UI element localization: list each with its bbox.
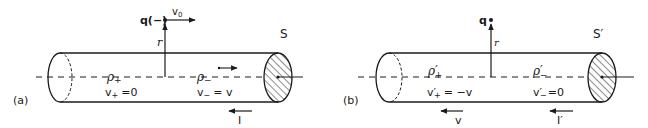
charge-point-b — [489, 18, 493, 22]
v-minus-label-a: v−= v — [197, 86, 233, 100]
charge-label-a: q(−) — [140, 14, 167, 27]
charge-label-b: q — [479, 14, 487, 27]
panel-b: r q ρ′+ v′+= −v ρ′− v′−=0 v I′ S′ (b) — [343, 14, 634, 127]
v-plus-label-b: v′+= −v — [427, 86, 473, 100]
panel-tag-b: (b) — [343, 94, 359, 107]
frame-label-a: S — [280, 27, 288, 41]
diagram-canvas: r q(−) v0 ρ+ v+=0 ρ− v−= v I S (a) — [0, 0, 648, 128]
panel-a: r q(−) v0 ρ+ v+=0 ρ− v−= v I S (a) — [13, 6, 303, 127]
panel-tag-a: (a) — [13, 94, 28, 107]
v-plus-label-a: v+=0 — [105, 86, 137, 100]
rho-minus-label-b: ρ′− — [532, 64, 547, 80]
frame-label-b: S′ — [593, 27, 604, 41]
rho-plus-label-b: ρ′+ — [427, 64, 442, 80]
velocity-label-b: v — [455, 114, 462, 127]
radius-label-b: r — [494, 37, 500, 48]
rho-minus-label-a: ρ− — [196, 70, 212, 85]
current-label-a: I — [238, 114, 241, 127]
charge-velocity-label-a: v0 — [172, 6, 182, 19]
rho-plus-label-a: ρ+ — [106, 70, 122, 85]
v-minus-label-b: v′−=0 — [533, 86, 564, 100]
radius-label-a: r — [157, 36, 163, 49]
current-label-b: I′ — [557, 114, 563, 127]
